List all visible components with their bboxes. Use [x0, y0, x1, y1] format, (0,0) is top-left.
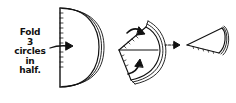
diagram: Fold 3 circles in half.: [0, 0, 236, 103]
fold-down-arrow-icon: [127, 27, 145, 35]
next-step-arrow-icon: [165, 42, 180, 49]
illustration: [0, 0, 236, 103]
cone-shape: [187, 26, 229, 55]
fold-up-arrow-icon: [128, 59, 143, 74]
